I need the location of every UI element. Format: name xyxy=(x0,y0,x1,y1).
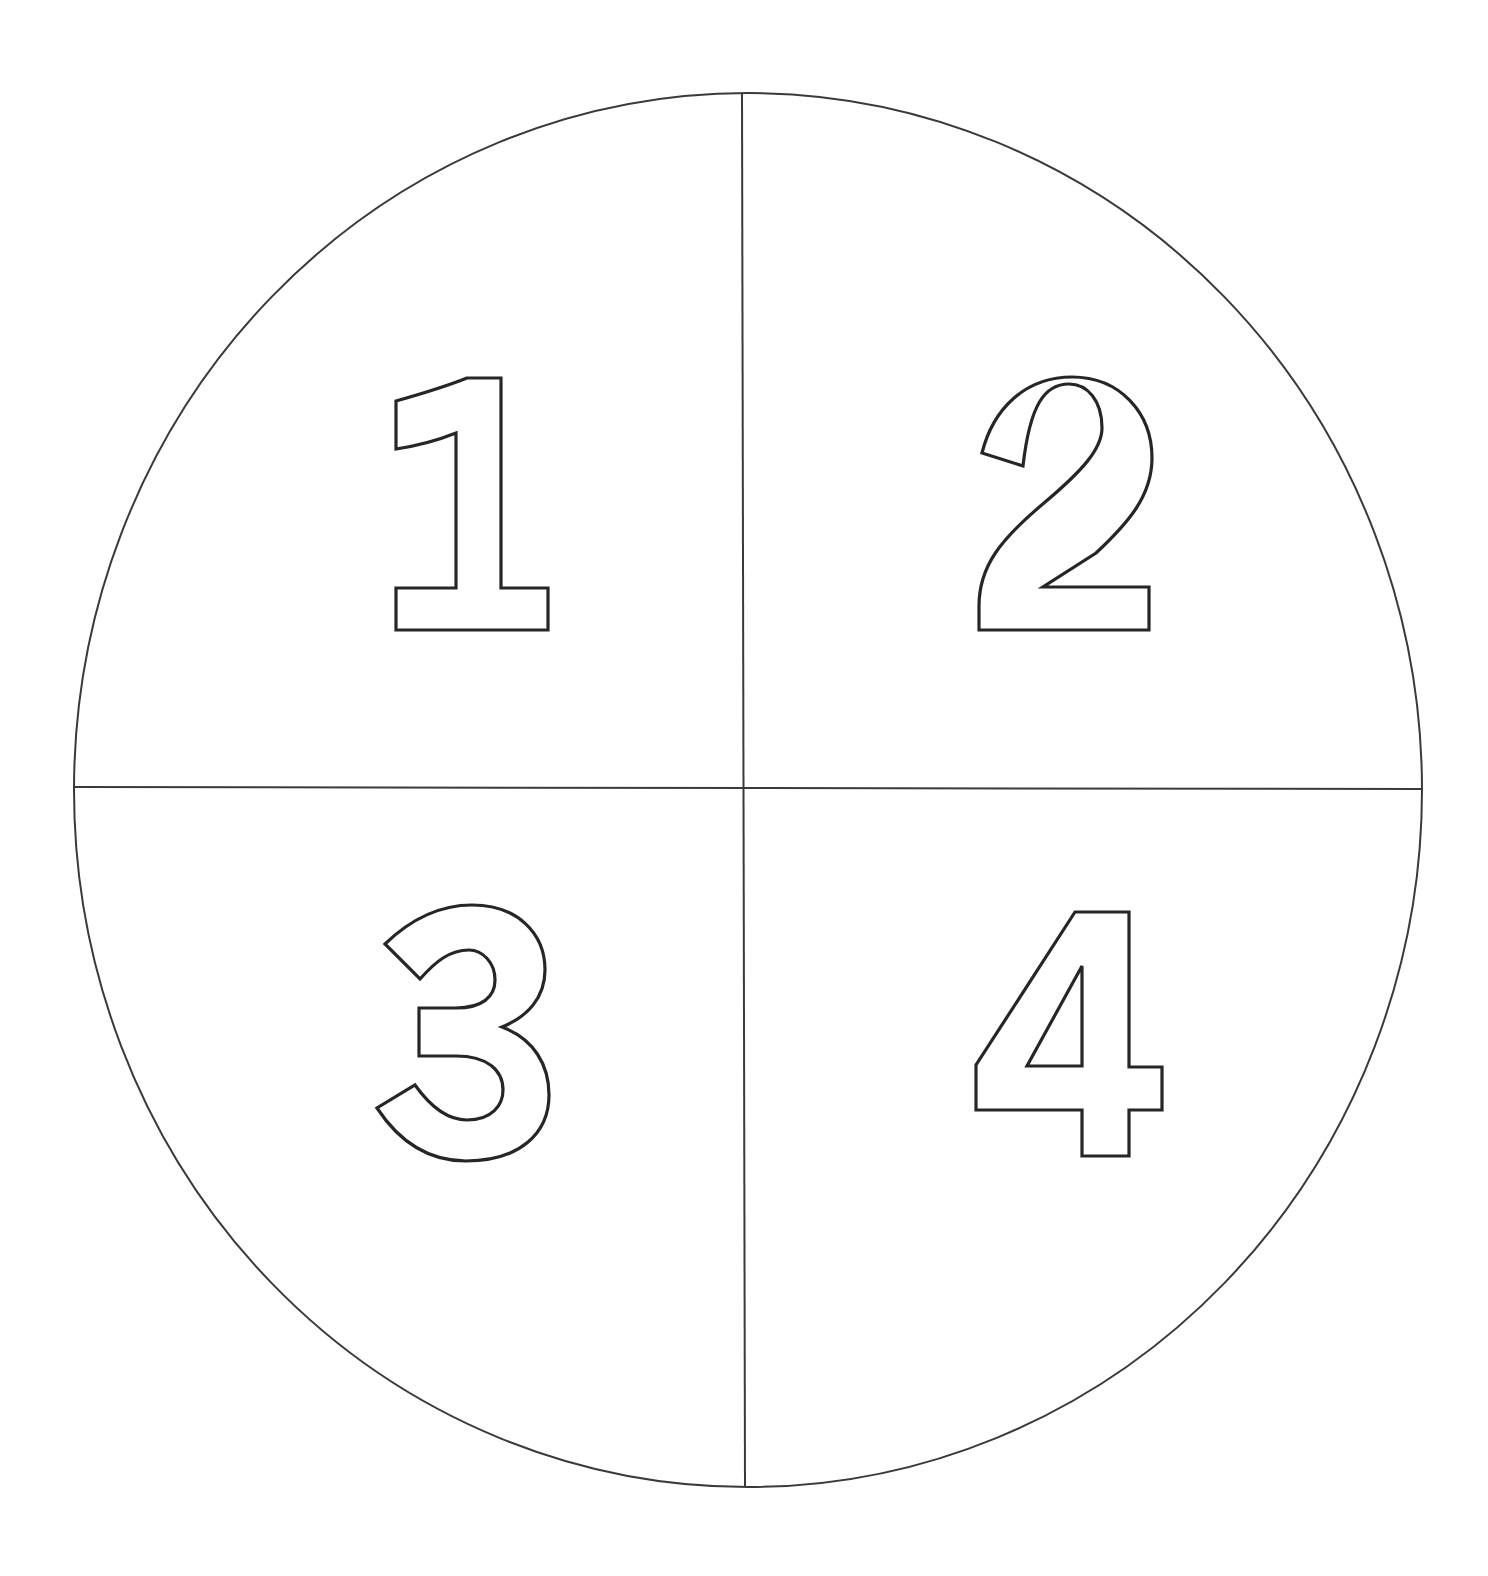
diagram-canvas xyxy=(0,0,1488,1576)
quadrant-2-number xyxy=(979,377,1152,630)
quadrant-4-number xyxy=(976,912,1162,1156)
horizontal-divider xyxy=(74,787,1422,789)
quadrant-1-number xyxy=(396,378,548,630)
quadrant-3-number xyxy=(377,905,549,1161)
quadrant-circle-diagram: 1 2 3 4 xyxy=(0,0,1488,1576)
circle-outline xyxy=(74,93,1422,1487)
vertical-divider xyxy=(742,94,745,1487)
